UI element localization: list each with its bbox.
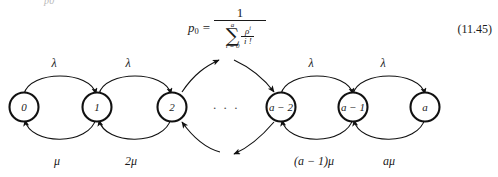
arc-forward-in-a2 xyxy=(234,60,274,92)
state-node-a-minus-2[interactable]: a − 2 xyxy=(267,93,296,122)
state-node-1-label: 1 xyxy=(94,101,100,113)
state-node-2-label: 2 xyxy=(169,101,175,113)
summand-fraction: ρi i ! xyxy=(241,25,254,46)
rate-label-lambda-a2-a1: λ xyxy=(307,56,313,70)
state-node-0[interactable]: 0 xyxy=(10,93,39,122)
equation-body: p0 = 1 a ∑ i = 0 ρi i ! xyxy=(188,6,266,50)
state-node-0-label: 0 xyxy=(21,101,27,113)
state-node-a-minus-1[interactable]: a − 1 xyxy=(339,93,368,122)
arc-backward-out-2 xyxy=(182,122,220,152)
state-node-2[interactable]: 2 xyxy=(158,93,187,122)
rate-label-mu-a1-a2: (a − 1)μ xyxy=(294,154,334,168)
rate-label-mu-2-1: 2μ xyxy=(125,154,137,168)
arc-forward-1-2 xyxy=(99,76,171,94)
arc-backward-1-0 xyxy=(25,118,96,139)
equation-lhs: p0 xyxy=(188,20,202,36)
summation-operator: a ∑ i = 0 xyxy=(226,22,240,50)
state-transition-diagram: 0 1 2 a − 2 a − 1 xyxy=(0,52,498,177)
backward-rate-labels: μ 2μ (a − 1)μ aμ xyxy=(53,154,395,168)
rate-label-mu-a-a1: aμ xyxy=(383,154,395,168)
textbook-page-fragment: p0 p0 = 1 a ∑ i = 0 ρi i ! xyxy=(0,0,498,177)
summand-denominator: i ! xyxy=(242,37,254,46)
arc-forward-a1-a xyxy=(353,76,425,94)
rate-label-lambda-0-1: λ xyxy=(50,56,56,70)
state-node-a[interactable]: a xyxy=(411,93,440,122)
state-node-a-minus-2-label: a − 2 xyxy=(269,101,293,113)
forward-transition-arcs xyxy=(24,60,425,94)
fraction-denominator: a ∑ i = 0 ρi i ! xyxy=(223,21,258,50)
rate-label-mu-1-0: μ xyxy=(53,154,60,168)
fraction-numerator: 1 xyxy=(231,6,250,20)
rate-label-lambda-a1-a: λ xyxy=(379,56,385,70)
display-equation: p0 = 1 a ∑ i = 0 ρi i ! xyxy=(0,6,498,54)
state-node-a-label: a xyxy=(422,101,428,113)
equation-relation: = xyxy=(202,20,214,36)
rate-label-lambda-1-2: λ xyxy=(124,56,130,70)
equation-lhs-subscript: 0 xyxy=(195,26,199,36)
summand-exponent: i xyxy=(249,25,251,31)
arc-forward-0-1 xyxy=(24,76,96,94)
states-ellipsis: · · · xyxy=(213,100,240,115)
arc-backward-a2-out xyxy=(234,122,274,154)
summation-lower-limit: i = 0 xyxy=(226,43,240,50)
arc-backward-2-1 xyxy=(99,118,171,139)
state-node-1[interactable]: 1 xyxy=(83,93,112,122)
state-node-a-minus-1-label: a − 1 xyxy=(341,101,365,113)
arc-backward-a1-a2 xyxy=(282,118,353,139)
arc-forward-a2-a1 xyxy=(281,76,353,94)
main-fraction: 1 a ∑ i = 0 ρi i ! xyxy=(214,6,266,50)
equation-number: (11.45) xyxy=(457,22,492,37)
forward-rate-labels: λ λ λ λ xyxy=(50,56,385,70)
arc-forward-2-out xyxy=(182,60,219,92)
backward-transition-arcs xyxy=(25,118,425,154)
arc-backward-a-a1 xyxy=(354,118,425,139)
summand-numerator: ρi xyxy=(243,25,253,36)
